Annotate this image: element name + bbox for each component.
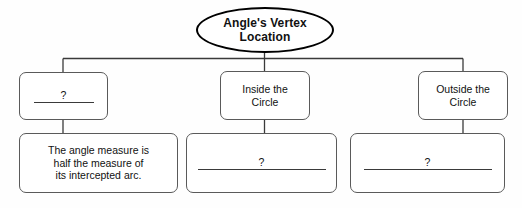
blank-answer-field[interactable]: ?: [351, 157, 504, 170]
concept-map-diagram: Angle's Vertex Location ? Inside the Cir…: [0, 0, 522, 208]
blank-answer-field[interactable]: ?: [187, 157, 336, 170]
inside-circle-line-2: Circle: [252, 96, 279, 109]
answer-underline: [364, 169, 492, 170]
node-unknown-vertex-location: ?: [19, 72, 108, 120]
question-mark: ?: [61, 90, 67, 101]
angle-rule-line-2: half the measure of: [54, 157, 144, 170]
blank-answer-field[interactable]: ?: [20, 90, 107, 103]
angle-rule-line-1: The angle measure is: [48, 144, 149, 157]
node-outside-the-circle: Outside the Circle: [418, 71, 508, 120]
answer-underline: [34, 102, 94, 103]
outside-circle-line-2: Circle: [450, 96, 477, 109]
title-line-2: Location: [240, 30, 291, 45]
answer-underline: [198, 169, 326, 170]
node-angles-vertex-location: Angle's Vertex Location: [196, 7, 334, 53]
angle-rule-line-3: its intercepted arc.: [56, 169, 142, 182]
node-angle-measure-rule: The angle measure is half the measure of…: [19, 133, 178, 193]
title-line-1: Angle's Vertex: [223, 16, 307, 31]
question-mark: ?: [425, 157, 431, 168]
question-mark: ?: [259, 157, 265, 168]
outside-circle-line-1: Outside the: [436, 83, 490, 96]
inside-circle-line-1: Inside the: [242, 83, 288, 96]
node-inside-circle-rule-blank: ?: [186, 133, 337, 193]
node-inside-the-circle: Inside the Circle: [220, 71, 310, 120]
node-outside-circle-rule-blank: ?: [350, 133, 505, 193]
